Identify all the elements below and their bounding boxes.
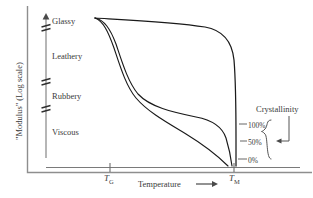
crystallinity-level-50: 50% [248,139,262,147]
crystallinity-level-0: 0% [248,157,258,165]
crystallinity-arrowhead-icon [276,138,282,143]
crystallinity-leader-line [279,116,289,141]
y-axis-arrowhead-icon [43,13,50,20]
curve-crystallinity-100 [95,18,236,166]
temperature-direction-arrow-icon [196,181,218,187]
x-axis-title: Temperature [138,180,181,189]
crystallinity-level-100: 100% [248,122,266,130]
y-axis-title: "Modulus" (Log scale) [14,62,24,140]
x-tick-label-tm-sub: M [234,178,240,185]
crystallinity-title: Crystallinity [256,105,299,114]
figure-modulus-vs-temperature: "Modulus" (Log scale) Glassy Leathery Ru… [0,0,312,198]
region-label-glassy: Glassy [52,17,75,26]
region-label-leathery: Leathery [52,52,82,61]
plot-canvas [0,0,312,198]
region-label-rubbery: Rubbery [52,92,81,101]
x-tick-label-tm: TM [229,174,240,185]
x-axis [46,163,300,172]
curve-crystallinity-50 [95,18,232,166]
x-tick-label-tg: TG [104,174,114,185]
region-label-viscous: Viscous [52,128,79,137]
figure-frame [28,6,313,173]
x-tick-label-tg-sub: G [109,178,114,185]
y-axis [42,13,51,158]
